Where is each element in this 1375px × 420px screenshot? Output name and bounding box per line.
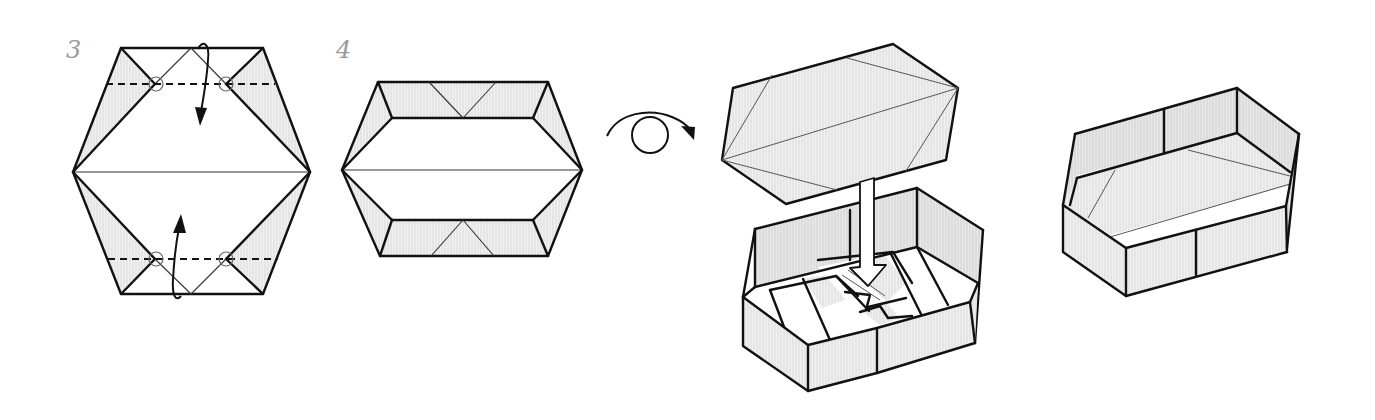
- step-3-diagram: [73, 44, 310, 299]
- fold-up-arrow-icon: [173, 214, 186, 298]
- finished-box-diagram: [1063, 88, 1299, 296]
- lid-insertion-diagram: [722, 44, 983, 391]
- origami-diagram: 3 4: [0, 0, 1375, 420]
- step-4-diagram: [342, 82, 582, 256]
- turn-over-icon: [607, 113, 695, 153]
